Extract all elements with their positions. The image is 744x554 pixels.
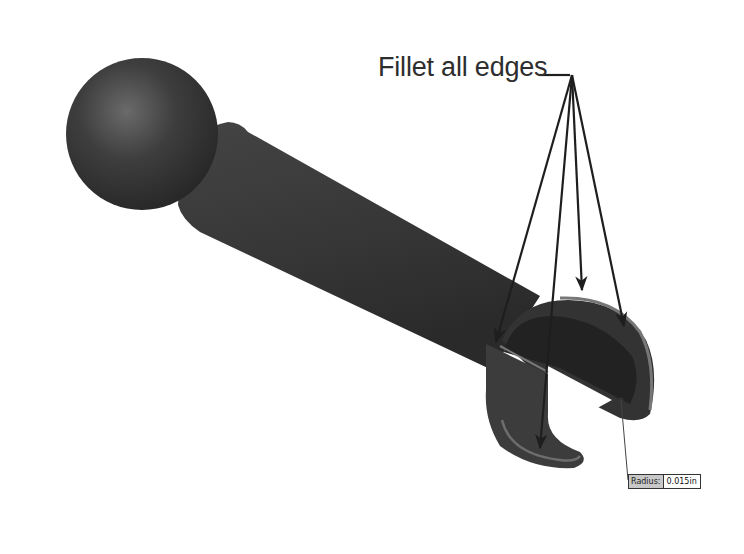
model-viewport[interactable]: [0, 0, 744, 554]
ball-end: [66, 58, 218, 210]
arrow-4: [572, 75, 624, 326]
arrow-3: [572, 75, 582, 290]
radius-dimension[interactable]: Radius: 0.015in: [628, 474, 701, 489]
callout-label: Fillet all edges: [378, 52, 547, 83]
radius-label: Radius:: [629, 475, 664, 488]
radius-value[interactable]: 0.015in: [664, 475, 700, 488]
rod-shaft: [178, 122, 540, 370]
